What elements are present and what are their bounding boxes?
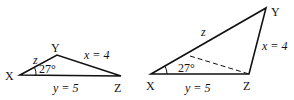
right-vertex-y: Y	[271, 5, 280, 19]
left-vertex-y: Y	[51, 41, 60, 55]
left-side-x-label: x = 4	[83, 48, 109, 62]
right-vertex-z: Z	[243, 79, 250, 93]
right-triangle: X Y Z 27° z x = 4 y = 5	[146, 5, 287, 95]
right-angle-arc	[165, 66, 167, 74]
right-side-x-label: x = 4	[261, 39, 287, 53]
right-angle-label: 27°	[178, 61, 195, 75]
left-vertex-z: Z	[114, 81, 121, 95]
left-angle-arc	[35, 67, 37, 75]
left-angle-label: 27°	[39, 62, 56, 76]
left-side-y-label: y = 5	[52, 81, 78, 95]
left-side-z-label: z	[32, 53, 38, 67]
right-vertex-x: X	[146, 79, 155, 93]
right-triangle-outline	[151, 8, 266, 74]
right-side-z-label: z	[200, 25, 206, 39]
left-vertex-x: X	[5, 69, 14, 83]
right-side-y-label: y = 5	[184, 81, 210, 95]
left-triangle: X Y Z 27° z x = 4 y = 5	[5, 41, 121, 95]
diagram-canvas: X Y Z 27° z x = 4 y = 5 X Y Z 27° z x = …	[0, 0, 294, 100]
right-dashed-segment	[190, 56, 249, 74]
